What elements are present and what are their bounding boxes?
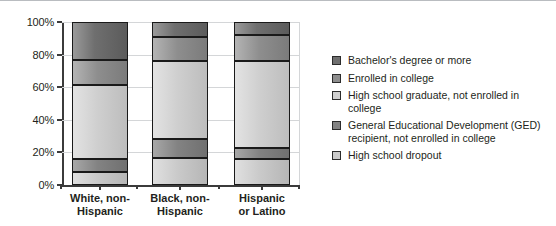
legend-item: High school graduate, not enrolled in co…: [332, 89, 554, 114]
y-axis-tick-label: 60%: [33, 81, 54, 93]
legend-label: High school graduate, not enrolled in co…: [348, 89, 554, 114]
legend-label: High school dropout: [348, 149, 441, 162]
bar-segment: [234, 148, 290, 159]
bar-segment: [72, 60, 128, 85]
legend-item: Bachelor's degree or more: [332, 54, 554, 67]
plot-area: 100%80%60%40%20%0%: [62, 22, 300, 185]
bar-segment: [72, 159, 128, 172]
y-axis-line: [62, 22, 64, 186]
legend-item: High school dropout: [332, 149, 554, 162]
bar-segment: [234, 61, 290, 147]
x-axis-tick: [99, 185, 101, 190]
y-axis-tick-label: 0%: [39, 179, 55, 191]
legend-swatch: [332, 121, 341, 130]
x-axis-minor-tick: [60, 185, 62, 189]
bar-group: [152, 22, 208, 185]
x-axis-minor-tick: [298, 185, 300, 189]
bar-group: [72, 22, 128, 185]
bar-segment: [234, 159, 290, 185]
bar-segment: [72, 172, 128, 185]
y-axis-tick-label: 40%: [33, 114, 54, 126]
bar-segment: [152, 158, 208, 185]
legend-swatch: [332, 91, 341, 100]
bar-segment: [72, 85, 128, 159]
bar-segment: [234, 35, 290, 61]
x-axis-tick: [261, 185, 263, 190]
legend-swatch: [332, 56, 341, 65]
y-axis-tick: [57, 119, 62, 121]
legend-label: General Educational Development (GED) re…: [348, 119, 541, 144]
y-axis-tick: [57, 54, 62, 56]
chart-legend: Bachelor's degree or moreEnrolled in col…: [332, 54, 554, 167]
x-axis-minor-tick: [136, 185, 138, 189]
legend-label: Enrolled in college: [348, 72, 434, 85]
x-axis-category-label: Hispanicor Latino: [207, 192, 317, 218]
y-axis-tick: [57, 21, 62, 23]
plot-frame-right: [299, 22, 300, 185]
bar-segment: [234, 22, 290, 35]
category-label-line: Hispanic: [207, 192, 317, 205]
y-axis-tick: [57, 151, 62, 153]
legend-item: General Educational Development (GED) re…: [332, 119, 554, 144]
bar-segment: [152, 61, 208, 139]
y-axis-tick: [57, 86, 62, 88]
bar-group: [234, 22, 290, 185]
legend-swatch: [332, 74, 341, 83]
category-label-line: or Latino: [207, 205, 317, 218]
top-divider: [0, 0, 556, 1]
chart-figure: Percent 100%80%60%40%20%0% White, non-Hi…: [0, 0, 556, 226]
y-axis-tick-label: 20%: [33, 146, 54, 158]
legend-item: Enrolled in college: [332, 72, 554, 85]
bar-segment: [152, 22, 208, 37]
x-axis-line: [62, 185, 300, 187]
y-axis-tick-label: 80%: [33, 49, 54, 61]
x-axis-tick: [179, 185, 181, 190]
bar-segment: [152, 37, 208, 61]
legend-swatch: [332, 151, 341, 160]
x-axis-minor-tick: [218, 185, 220, 189]
bar-segment: [152, 139, 208, 158]
bar-segment: [72, 22, 128, 59]
y-axis-tick-label: 100%: [27, 16, 54, 28]
legend-label: Bachelor's degree or more: [348, 54, 471, 67]
